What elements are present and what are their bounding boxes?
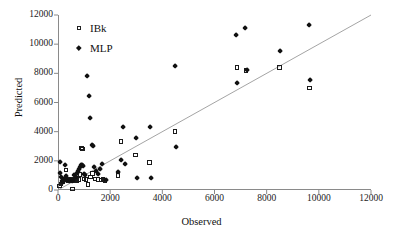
- data-point-ibk: [119, 139, 124, 144]
- data-point-ibk: [277, 65, 282, 70]
- data-point-ibk: [147, 160, 152, 165]
- data-point-ibk: [133, 153, 138, 158]
- x-tick-label: 8000: [237, 194, 297, 204]
- data-point-ibk: [64, 168, 69, 173]
- legend-label-ibk: IBk: [90, 23, 107, 34]
- legend-item-mlp: MLP: [72, 38, 113, 58]
- data-point-ibk: [80, 147, 85, 152]
- x-tick-label: 0: [28, 194, 88, 204]
- x-tick-label: 6000: [185, 194, 245, 204]
- data-point-ibk: [307, 86, 312, 91]
- scatter-chart: 020004000600080001000012000 020004000600…: [0, 0, 403, 245]
- x-tick-label: 2000: [80, 194, 140, 204]
- legend-label-mlp: MLP: [90, 43, 113, 54]
- x-tick-label: 10000: [289, 194, 349, 204]
- open-square-icon: [72, 26, 86, 30]
- data-point-ibk: [70, 187, 75, 192]
- y-axis-title: Predicted: [13, 28, 24, 168]
- x-axis-title: Observed: [0, 216, 403, 227]
- x-tick-label: 4000: [132, 194, 192, 204]
- filled-diamond-icon: [72, 46, 86, 50]
- chart-legend: IBk MLP: [72, 18, 113, 58]
- x-tick-label: 12000: [341, 194, 401, 204]
- data-point-ibk: [235, 65, 240, 70]
- y-tick-label: 12000: [7, 10, 53, 20]
- legend-item-ibk: IBk: [72, 18, 113, 38]
- data-point-ibk: [173, 129, 178, 134]
- data-point-ibk: [86, 182, 91, 187]
